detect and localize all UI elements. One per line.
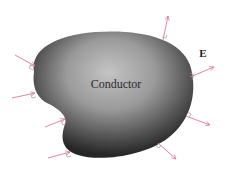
field-line-right-top: [163, 16, 168, 40]
conductor-body: [33, 31, 193, 157]
field-line-left-1: [15, 55, 35, 66]
conductor-field-diagram: Conductor E: [0, 0, 230, 174]
right-angle-marker-icon: [162, 35, 167, 38]
right-angle-marker-icon: [66, 153, 71, 157]
electric-field-label: E: [199, 47, 206, 59]
conductor-label: Conductor: [91, 77, 142, 91]
right-angle-marker-icon: [31, 94, 36, 98]
